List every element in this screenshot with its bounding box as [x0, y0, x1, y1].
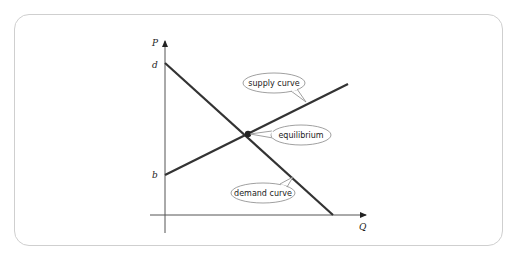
- supply-curve-callout: supply curve: [243, 73, 306, 102]
- svg-text:demand curve: demand curve: [234, 189, 292, 198]
- svg-text:equilibrium: equilibrium: [278, 131, 323, 140]
- svg-text:supply curve: supply curve: [248, 79, 299, 88]
- tick-d: d: [152, 60, 158, 70]
- y-axis-label: P: [151, 38, 159, 48]
- equilibrium-callout: equilibrium: [250, 125, 331, 145]
- tick-b: b: [152, 170, 158, 180]
- x-axis-label: Q: [359, 222, 367, 232]
- supply-demand-diagram: P Q d b supply curve equilibrium demand …: [0, 0, 518, 257]
- demand-curve-callout: demand curve: [231, 177, 295, 203]
